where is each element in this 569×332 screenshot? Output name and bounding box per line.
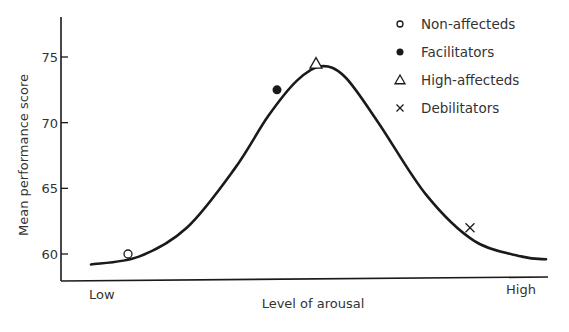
legend-item: Facilitators (397, 44, 495, 60)
legend-label: Debilitators (421, 100, 499, 116)
legend-item: High-affecteds (395, 72, 519, 88)
data-point-debilitators-marker-icon (466, 223, 475, 232)
legend-filled-circle-icon (397, 49, 404, 56)
y-tick-label: 60 (41, 247, 58, 262)
y-tick-label: 75 (41, 50, 58, 65)
data-point-facilitators-marker-icon (273, 85, 282, 94)
axes: 60657075LowHighLevel of arousalMean perf… (16, 17, 548, 311)
legend-open-triangle-icon (395, 75, 405, 84)
x-tick-label-low: Low (89, 287, 115, 302)
legend-label: High-affecteds (421, 72, 519, 88)
performance-curve (91, 66, 546, 264)
data-point-high-affecteds-marker-icon (310, 58, 322, 69)
x-axis-label: Level of arousal (262, 296, 365, 311)
legend: Non-affectedsFacilitatorsHigh-affectedsD… (395, 16, 519, 116)
bell-curve-line (91, 66, 546, 264)
legend-open-circle-icon (397, 21, 403, 27)
x-axis (61, 277, 548, 281)
y-tick-label: 70 (41, 116, 58, 131)
y-axis-label: Mean performance score (16, 74, 31, 236)
x-tick-label-high: High (506, 282, 536, 297)
legend-x-icon (397, 105, 404, 112)
legend-label: Facilitators (421, 44, 494, 60)
legend-item: Debilitators (397, 100, 500, 116)
data-point-non-affecteds-marker-icon (124, 250, 132, 258)
legend-label: Non-affecteds (421, 16, 515, 32)
chart: 60657075LowHighLevel of arousalMean perf… (0, 0, 569, 332)
y-tick-label: 65 (41, 181, 58, 196)
legend-item: Non-affecteds (397, 16, 515, 32)
